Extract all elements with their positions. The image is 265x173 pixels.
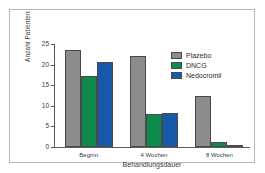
x-category-label: Beginn: [79, 152, 98, 158]
legend-item[interactable]: DNCG: [171, 61, 221, 70]
legend-swatch-icon: [171, 52, 182, 59]
y-tick-label: 5: [45, 123, 49, 130]
legend-label: Plazebo: [186, 52, 211, 59]
y-tick-label: 0: [45, 144, 49, 151]
bar: [227, 145, 243, 147]
bar: [146, 114, 162, 147]
legend-swatch-icon: [171, 72, 182, 79]
y-tick-mark: [51, 85, 54, 86]
y-tick-mark: [51, 147, 54, 148]
y-axis-line: [54, 44, 55, 147]
y-axis-title: Anzahl Patienten: [24, 11, 31, 62]
chart-legend: PlazeboDNCGNedocromil: [171, 51, 221, 81]
y-tick-mark: [51, 44, 54, 45]
legend-label: DNCG: [186, 62, 207, 69]
figure-frame: Anzahl Patienten Behandlungsdauer 051015…: [9, 9, 255, 163]
x-axis-title: Behandlungsdauer: [54, 161, 250, 168]
y-tick-label: 10: [42, 103, 49, 110]
bar: [162, 113, 178, 147]
legend-label: Nedocromil: [186, 72, 221, 79]
bar: [97, 62, 113, 147]
legend-item[interactable]: Nedocromil: [171, 71, 221, 80]
legend-swatch-icon: [171, 62, 182, 69]
y-tick-label: 25: [42, 41, 49, 48]
bar: [65, 50, 81, 147]
x-category-label: 4 Wochen: [141, 152, 168, 158]
bar: [211, 142, 227, 147]
x-axis-line: [54, 147, 250, 148]
y-tick-mark: [51, 65, 54, 66]
bar: [195, 96, 211, 148]
x-category-label: 8 Wochen: [206, 152, 233, 158]
y-tick-mark: [51, 106, 54, 107]
legend-item[interactable]: Plazebo: [171, 51, 221, 60]
y-tick-label: 15: [42, 82, 49, 89]
bar: [81, 76, 97, 147]
bar: [130, 56, 146, 147]
y-tick-mark: [51, 126, 54, 127]
y-tick-label: 20: [42, 61, 49, 68]
